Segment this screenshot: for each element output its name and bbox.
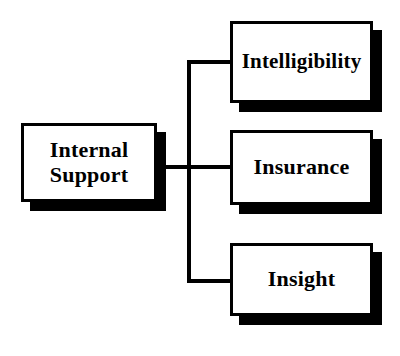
node-label-insurance: Insurance: [250, 155, 354, 180]
node-face: Insurance: [230, 130, 373, 205]
connector-branch-insurance: [187, 165, 232, 169]
node-label-internal-support: Internal Support: [46, 138, 133, 187]
node-insight[interactable]: Insight: [230, 243, 373, 316]
node-face: Insight: [230, 243, 373, 316]
node-label-insight: Insight: [264, 267, 339, 292]
node-label-intelligibility: Intelligibility: [238, 50, 366, 74]
connector-spine-vertical: [187, 60, 191, 283]
node-internal-support[interactable]: Internal Support: [21, 123, 157, 202]
node-intelligibility[interactable]: Intelligibility: [230, 21, 373, 103]
node-face: Internal Support: [21, 123, 157, 202]
node-insurance[interactable]: Insurance: [230, 130, 373, 205]
connector-branch-insight: [187, 279, 232, 283]
node-face: Intelligibility: [230, 21, 373, 103]
diagram-canvas: Internal Support Intelligibility Insuran…: [0, 0, 400, 356]
connector-branch-intelligibility: [187, 60, 232, 64]
